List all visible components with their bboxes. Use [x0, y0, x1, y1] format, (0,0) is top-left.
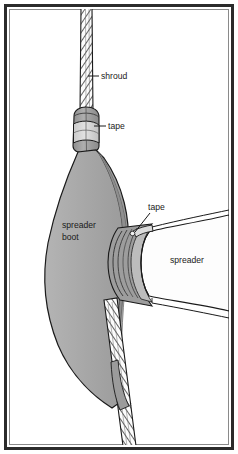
tape-upper-label: tape	[108, 121, 125, 131]
shroud-label: shroud	[101, 71, 127, 81]
spreader-label: spreader	[170, 255, 204, 265]
label-spreader: spreader	[170, 255, 204, 265]
shroud-upper	[80, 8, 93, 112]
spreader-boot-label-line1: spreader	[62, 220, 96, 230]
tape-wrap-upper	[74, 121, 100, 143]
spreader-boot-illustration: shroud tape tape spreader boot spreader	[0, 0, 238, 454]
spreader-boot-label-line2: boot	[62, 232, 79, 242]
figure-page: shroud tape tape spreader boot spreader	[0, 0, 238, 454]
figure-frame: shroud tape tape spreader boot spreader	[0, 0, 238, 454]
tape-lower-label: tape	[148, 202, 165, 212]
